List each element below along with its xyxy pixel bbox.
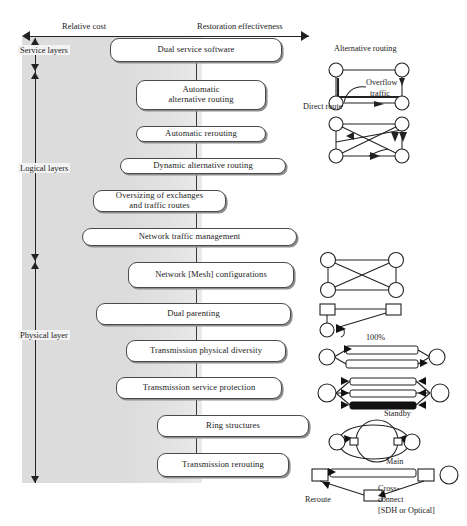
ladder-box-label-line2: and traffic routes: [129, 201, 189, 211]
sketch-physical-diversity: [314, 342, 454, 376]
sketch-label-crossconnect-3: [SDH or Optical]: [378, 506, 435, 515]
axis-arrow-up-physical: [31, 262, 39, 269]
ladder-box-label: Dynamic alternative routing: [153, 161, 253, 171]
axis-arrow-down-physical: [31, 476, 39, 483]
ladder-box-label: Dual parenting: [167, 309, 220, 319]
ladder-box-label: Ring structures: [206, 421, 260, 431]
ladder-box-transmission-rerouting[interactable]: Transmission rerouting: [157, 453, 289, 477]
connector-9: [196, 362, 197, 377]
band-label-service-layers: Service layers: [18, 45, 70, 55]
connector-4: [196, 174, 197, 190]
connector-2: [196, 110, 197, 126]
connector-10: [196, 399, 197, 415]
sketch-mesh-configuration: [314, 248, 434, 302]
axis-label-relative-cost: Relative cost: [62, 21, 106, 31]
ladder-box-dual-service-software[interactable]: Dual service software: [110, 38, 282, 62]
sketch-label-crossconnect-2: connect: [378, 495, 403, 504]
ladder-box-transmission-physical-diversity[interactable]: Transmission physical diversity: [126, 340, 286, 362]
connector-6: [196, 246, 197, 262]
band-label-logical-layers: Logical layers: [18, 163, 70, 173]
sketch-title-alternative-routing: Alternative routing: [334, 44, 397, 53]
arrow-right-icon: [301, 31, 309, 41]
axis-arrow-down-service: [31, 64, 39, 71]
sketch-label-100-percent: 100%: [366, 333, 385, 342]
connector-11: [196, 437, 197, 453]
axis-arrow-up-service: [31, 38, 39, 45]
ladder-box-label: Transmission rerouting: [182, 460, 264, 470]
ladder-box-label: Automatic rerouting: [165, 129, 237, 139]
ladder-box-label: Network [Mesh] configurations: [155, 270, 267, 280]
ladder-box-dynamic-alternative-routing[interactable]: Dynamic alternative routing: [120, 158, 286, 174]
sketch-annotation-overflow: Overflow: [366, 78, 397, 87]
band-label-physical-layer: Physical layer: [18, 330, 70, 340]
connector-7: [196, 288, 197, 303]
ladder-box-automatic-rerouting[interactable]: Automatic rerouting: [136, 126, 266, 142]
ladder-box-label: Transmission physical diversity: [150, 346, 262, 356]
connector-1: [196, 62, 197, 80]
axis-arrow-up-logical: [31, 72, 39, 79]
ladder-box-transmission-service-protection[interactable]: Transmission service protection: [116, 377, 282, 399]
ladder-box-network-traffic-management[interactable]: Network traffic management: [82, 228, 297, 246]
connector-8: [196, 325, 197, 340]
sketch-ring-structure: [320, 417, 450, 465]
sketch-annotation-traffic: traffic: [370, 89, 390, 98]
ladder-box-network-mesh-configurations[interactable]: Network [Mesh] configurations: [128, 262, 294, 288]
horizontal-axis-line: [28, 36, 309, 37]
figure-canvas: Relative cost Restoration effectiveness …: [0, 0, 467, 526]
ladder-box-oversizing-of-exchanges[interactable]: Oversizing of exchanges and traffic rout…: [93, 190, 226, 212]
ladder-box-dual-parenting[interactable]: Dual parenting: [96, 303, 291, 325]
ladder-box-label-line2: alternative routing: [168, 95, 233, 105]
sketch-label-reroute: Reroute: [305, 495, 331, 504]
sketch-label-crossconnect-1: Cross-: [378, 484, 399, 493]
connector-3: [196, 142, 197, 158]
ladder-box-label: Network traffic management: [139, 232, 241, 242]
sketch-annotation-direct-route: Direct route: [303, 102, 342, 111]
axis-arrow-down-logical: [31, 254, 39, 261]
ladder-box-label: Dual service software: [157, 45, 234, 55]
axis-label-restoration-effectiveness: Restoration effectiveness: [197, 21, 283, 31]
sketch-alternative-routing: [314, 56, 464, 168]
arrow-left-icon: [22, 31, 30, 41]
ladder-box-label: Transmission service protection: [143, 383, 256, 393]
ladder-box-automatic-alternative-routing[interactable]: Automatic alternative routing: [136, 80, 266, 110]
ladder-box-ring-structures[interactable]: Ring structures: [157, 415, 309, 437]
connector-5: [196, 212, 197, 228]
